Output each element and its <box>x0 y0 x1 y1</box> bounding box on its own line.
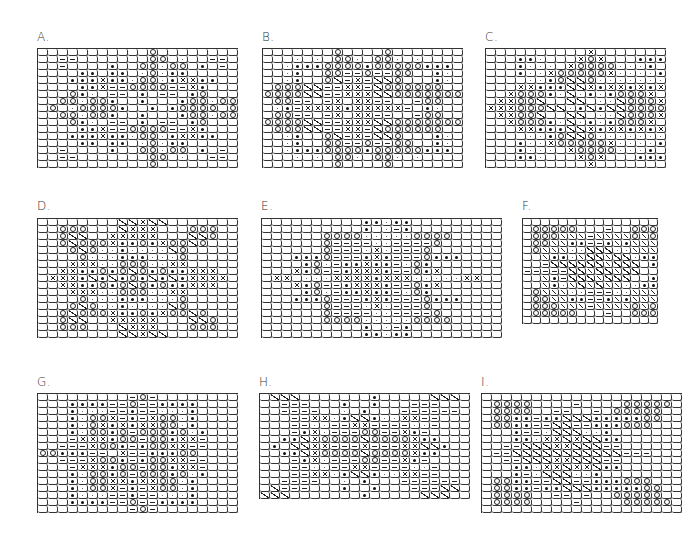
cell-dash-icon <box>362 310 372 317</box>
cell-empty <box>556 49 566 56</box>
cell-cross-icon <box>148 422 158 429</box>
cell-empty <box>496 49 506 56</box>
cell-dash-icon <box>148 506 158 513</box>
cell-open-circle-icon <box>662 401 672 408</box>
cell-cross-icon <box>148 478 158 485</box>
cell-open-circle-icon <box>208 233 218 240</box>
cell-cross-icon <box>282 275 292 282</box>
cell-empty <box>323 56 333 63</box>
cell-filled-dot-icon <box>178 98 188 105</box>
cell-cross-icon <box>98 84 108 91</box>
cell-filled-dot-icon <box>178 275 188 282</box>
cell-filled-dot-icon <box>442 296 452 303</box>
cell-empty <box>472 289 482 296</box>
cell-empty <box>272 282 282 289</box>
cell-small-dot-icon <box>577 247 586 254</box>
cell-empty <box>228 247 238 254</box>
cell-empty <box>218 133 228 140</box>
cell-empty <box>208 464 218 471</box>
cell-cross-icon <box>606 70 616 77</box>
cell-small-dot-icon <box>208 98 218 105</box>
cell-empty <box>460 464 470 471</box>
cell-empty <box>460 401 470 408</box>
cell-filled-dot-icon <box>188 485 198 492</box>
cell-empty <box>168 394 178 401</box>
cell-empty <box>292 331 302 338</box>
cell-small-dot-icon <box>636 140 646 147</box>
cell-open-circle-icon <box>516 91 526 98</box>
cell-empty <box>492 282 502 289</box>
cell-cross-icon <box>566 63 576 70</box>
cell-diagonal-slash-icon <box>450 394 460 401</box>
cell-empty <box>432 289 442 296</box>
cell-dash-icon <box>582 422 592 429</box>
cell-dash-icon <box>158 91 168 98</box>
cell-empty <box>649 219 658 226</box>
cell-dash-icon <box>392 282 402 289</box>
cell-filled-dot-icon <box>108 436 118 443</box>
cell-open-circle-icon <box>118 289 128 296</box>
cell-empty <box>652 464 662 471</box>
cell-empty <box>198 401 208 408</box>
cell-open-circle-icon <box>138 240 148 247</box>
cell-empty <box>482 464 492 471</box>
cell-empty <box>58 499 68 506</box>
cell-empty <box>342 331 352 338</box>
cell-cross-icon <box>596 56 606 63</box>
cell-empty <box>272 324 282 331</box>
cell-empty <box>282 296 292 303</box>
cell-empty <box>562 499 572 506</box>
cell-dash-icon <box>522 471 532 478</box>
cell-small-dot-icon <box>390 415 400 422</box>
cell-empty <box>218 492 228 499</box>
cell-open-circle-icon <box>622 499 632 506</box>
cell-filled-dot-icon <box>58 450 68 457</box>
cell-filled-dot-icon <box>636 154 646 161</box>
cell-empty <box>228 140 238 147</box>
cell-small-dot-icon <box>596 91 606 98</box>
cell-empty <box>228 436 238 443</box>
cell-empty <box>38 254 48 261</box>
cell-dash-icon <box>98 450 108 457</box>
cell-open-circle-icon <box>108 443 118 450</box>
cell-filled-dot-icon <box>363 63 373 70</box>
cell-open-circle-icon <box>168 63 178 70</box>
cell-open-circle-icon <box>58 226 68 233</box>
cell-dash-icon <box>168 126 178 133</box>
cell-cross-icon <box>208 268 218 275</box>
cell-empty <box>523 275 532 282</box>
cell-open-circle-icon <box>616 91 626 98</box>
cell-empty <box>546 56 556 63</box>
cell-empty <box>208 261 218 268</box>
cell-empty <box>506 77 516 84</box>
cell-empty <box>656 63 666 70</box>
cell-empty <box>270 464 280 471</box>
cell-dash-icon <box>402 240 412 247</box>
cell-empty <box>350 492 360 499</box>
cell-open-circle-icon <box>383 147 393 154</box>
cell-empty <box>188 161 198 168</box>
cell-dash-icon <box>350 457 360 464</box>
cell-open-circle-icon <box>293 91 303 98</box>
cell-open-circle-icon <box>652 499 662 506</box>
cell-open-circle-icon <box>322 233 332 240</box>
cell-open-circle-icon <box>78 324 88 331</box>
cell-empty <box>262 226 272 233</box>
cell-empty <box>486 77 496 84</box>
cell-empty <box>218 415 228 422</box>
cell-open-circle-icon <box>652 408 662 415</box>
cell-empty <box>178 394 188 401</box>
cell-open-circle-icon <box>78 240 88 247</box>
cell-empty <box>492 324 502 331</box>
cell-cross-icon <box>188 282 198 289</box>
cell-empty <box>218 219 228 226</box>
cell-dash-icon <box>420 401 430 408</box>
cell-empty <box>312 324 322 331</box>
cell-empty <box>58 70 68 77</box>
cell-filled-dot-icon <box>188 499 198 506</box>
cell-open-circle-icon <box>413 63 423 70</box>
cell-empty <box>218 422 228 429</box>
cell-filled-dot-icon <box>88 401 98 408</box>
cell-empty <box>218 105 228 112</box>
cell-cross-icon <box>586 84 596 91</box>
